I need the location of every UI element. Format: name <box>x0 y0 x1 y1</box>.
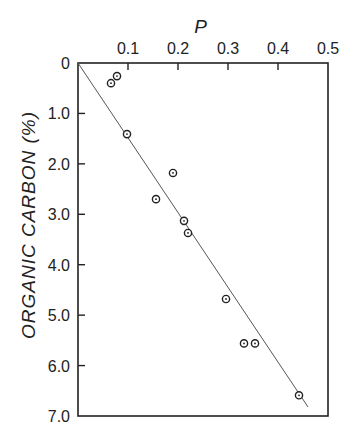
x-tick-label: 0.4 <box>267 40 289 57</box>
y-axis-ticks: 01.02.03.04.05.06.07.0 <box>48 55 85 425</box>
y-tick-label: 5.0 <box>48 307 70 324</box>
x-axis-title: P <box>194 16 208 37</box>
plot-border <box>78 63 328 416</box>
data-point-marker <box>295 392 302 399</box>
data-point-marker <box>152 196 159 203</box>
y-tick-label: 3.0 <box>48 206 70 223</box>
x-axis-ticks: 0.10.20.30.40.5 <box>117 40 339 70</box>
x-tick-label: 0.5 <box>317 40 339 57</box>
data-point-marker <box>251 340 258 347</box>
data-point-marker <box>123 131 130 138</box>
data-point-marker <box>113 73 120 80</box>
y-tick-label: 0 <box>61 55 70 72</box>
y-tick-label: 2.0 <box>48 156 70 173</box>
x-tick-label: 0.1 <box>117 40 139 57</box>
data-point-marker <box>107 80 114 87</box>
regression-line <box>78 63 308 407</box>
x-tick-label: 0.3 <box>217 40 239 57</box>
scatter-chart: 0.10.20.30.40.5 01.02.03.04.05.06.07.0 P… <box>0 0 353 436</box>
y-tick-label: 4.0 <box>48 257 70 274</box>
y-tick-label: 1.0 <box>48 105 70 122</box>
plot-frame <box>78 63 328 416</box>
data-point-marker <box>169 169 176 176</box>
data-point-marker <box>240 340 247 347</box>
data-point-marker <box>180 217 187 224</box>
y-axis-title: ORGANIC CARBON (%) <box>18 111 39 339</box>
y-tick-label: 7.0 <box>48 408 70 425</box>
fit-line <box>78 63 308 407</box>
x-tick-label: 0.2 <box>167 40 189 57</box>
data-point-marker <box>184 229 191 236</box>
data-points <box>107 73 302 399</box>
data-point-marker <box>222 295 229 302</box>
y-tick-label: 6.0 <box>48 358 70 375</box>
